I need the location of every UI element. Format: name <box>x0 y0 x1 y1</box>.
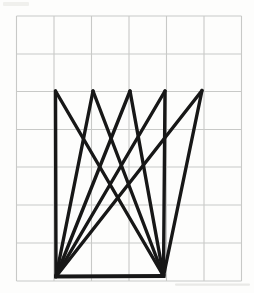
figure-edge-T2-BR <box>93 91 164 276</box>
grid-lines <box>17 16 242 281</box>
figure-edge-T3-BL <box>56 91 130 277</box>
figure-edge-T4-BR <box>164 91 166 276</box>
figure-base-edge <box>56 276 164 277</box>
puzzle-figure-canvas <box>0 0 254 293</box>
scan-artifact <box>3 2 29 6</box>
scanned-page <box>0 0 254 293</box>
figure-edge-T2-BL <box>56 91 93 277</box>
scan-artifact <box>175 284 250 286</box>
figure-edge-T1-BL <box>56 91 57 277</box>
figure-edge-T5-BR <box>164 91 203 277</box>
